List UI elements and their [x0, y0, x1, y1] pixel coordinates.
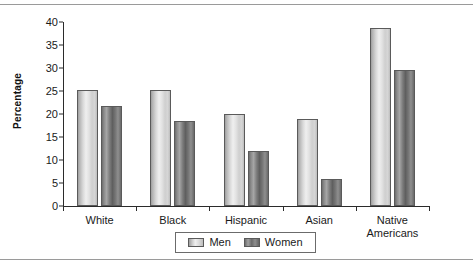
bar-women-native-americans — [394, 70, 415, 206]
legend-swatch-men-icon — [188, 238, 204, 247]
y-axis-tick-label: 15 — [46, 132, 58, 143]
category-label-line: Americans — [347, 227, 437, 240]
bar-women-black — [174, 121, 195, 206]
bar-women-hispanic — [248, 151, 269, 206]
bar-women-white — [101, 106, 122, 206]
y-axis-tick-label: 20 — [46, 109, 58, 120]
bar-group — [77, 22, 122, 206]
bar-men-white — [77, 90, 98, 206]
bar-men-black — [150, 90, 171, 206]
x-axis-tick-mark — [209, 206, 210, 211]
y-axis-title: Percentage — [12, 59, 23, 73]
y-axis-tick-mark — [59, 183, 63, 184]
bar-men-asian — [297, 119, 318, 206]
legend-swatch-women-icon — [244, 238, 260, 247]
y-axis-title-label: Percentage — [12, 73, 23, 129]
x-axis-tick-mark — [283, 206, 284, 211]
bar-group — [224, 22, 269, 206]
legend-item-men: Men — [188, 237, 230, 248]
x-axis-category-label: NativeAmericans — [347, 214, 437, 240]
y-axis-tick-mark — [59, 22, 63, 23]
y-axis-tick-label: 5 — [52, 178, 58, 189]
plot-area: 4035302520151050 — [63, 22, 429, 206]
y-axis-tick-label: 0 — [52, 201, 58, 212]
bar-women-asian — [321, 179, 342, 206]
page-rule-bottom — [0, 259, 473, 260]
x-axis-tick-mark — [429, 206, 430, 211]
y-axis-tick-label: 35 — [46, 40, 58, 51]
legend-label-women: Women — [265, 237, 303, 248]
legend-label-men: Men — [209, 237, 230, 248]
y-axis-tick-label: 25 — [46, 86, 58, 97]
y-axis-tick-label: 40 — [46, 17, 58, 28]
legend-item-women: Women — [244, 237, 303, 248]
bar-group — [370, 22, 415, 206]
bar-group — [150, 22, 195, 206]
chart-legend: Men Women — [175, 232, 316, 253]
x-axis-tick-mark — [356, 206, 357, 211]
y-axis-tick-mark — [59, 45, 63, 46]
y-axis-tick-mark — [59, 114, 63, 115]
y-axis-tick-label: 30 — [46, 63, 58, 74]
bar-men-native-americans — [370, 28, 391, 206]
y-axis-tick-mark — [59, 91, 63, 92]
y-axis-tick-mark — [59, 137, 63, 138]
bar-chart: Percentage 4035302520151050 WhiteBlackHi… — [0, 5, 473, 259]
bar-group — [297, 22, 342, 206]
x-axis-tick-mark — [136, 206, 137, 211]
y-axis-tick-mark — [59, 160, 63, 161]
category-label-line: Native — [347, 214, 437, 227]
y-axis-tick-label: 10 — [46, 155, 58, 166]
x-axis-line — [63, 206, 429, 207]
x-axis-tick-mark — [63, 206, 64, 211]
y-axis-tick-mark — [59, 68, 63, 69]
bar-men-hispanic — [224, 114, 245, 206]
